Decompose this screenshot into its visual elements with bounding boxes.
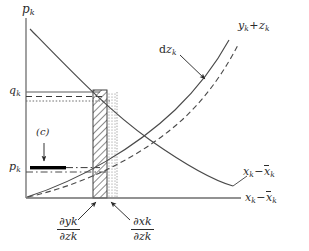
demand-curve-label: xk−xk	[243, 166, 275, 179]
derivative-dx-dz-label: ∂xk ∂zk	[131, 216, 154, 244]
dz-leader-arrow	[180, 55, 205, 79]
dz-annotation-label: dzk	[159, 44, 177, 57]
y-tick-label-lower: pk	[9, 161, 21, 174]
x-axis-label: xk−xk	[245, 192, 277, 205]
cost-marker-label: (c)	[36, 127, 49, 137]
derivative-dy-dz-label: ∂yk ∂zk	[57, 216, 80, 244]
hatched-band	[93, 90, 107, 198]
dxdz-leader-arrow	[111, 202, 130, 220]
dotted-band	[108, 92, 118, 198]
dydz-leader-arrow	[78, 202, 96, 220]
shifted-supply-curve	[28, 45, 238, 197]
cost-black-bar	[30, 166, 66, 169]
y-tick-label-upper: qk	[9, 85, 21, 98]
economic-diagram-figure: pk qk pk (c) yk+zk dzk xk−xk xk−xk ∂yk ∂…	[0, 0, 309, 251]
supply-curve	[27, 40, 229, 197]
demand-curve	[30, 29, 233, 186]
axis-lines	[26, 18, 241, 198]
y-axis-label: pk	[22, 3, 35, 16]
supply-curve-label: yk+zk	[238, 20, 269, 33]
